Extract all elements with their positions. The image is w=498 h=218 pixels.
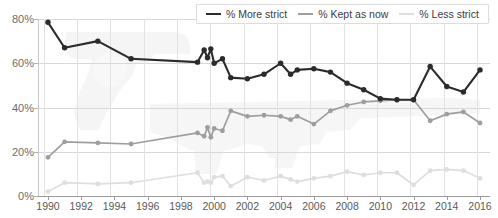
x-tick-mark-1996 [148,196,149,200]
data-point [477,67,482,72]
legend-swatch-more-strict [206,13,221,16]
x-axis-labels: 1990199219941996199820002002200420062008… [0,199,498,218]
data-point [328,108,333,113]
legend-item-less-strict[interactable]: % Less strict [399,9,479,20]
data-point [95,181,100,186]
x-tick-mark-2014 [447,196,448,200]
x-tick-label-2000: 2000 [202,201,225,212]
data-point [245,76,250,81]
x-tick-mark-1992 [81,196,82,200]
data-point [228,184,233,189]
data-point [278,174,283,179]
data-point [46,155,51,160]
x-tick-label-1990: 1990 [36,201,59,212]
data-point [205,55,210,60]
series-line [48,100,480,158]
x-tick-mark-2008 [347,196,348,200]
data-point [129,142,134,147]
y-axis-labels: 0%20%40%60%80% [0,0,34,218]
data-point [461,110,466,115]
x-tick-label-2006: 2006 [302,201,325,212]
data-point [228,108,233,113]
data-point [295,114,300,119]
data-point [278,61,283,66]
y-tick-mark-0 [34,196,38,197]
series-kept-as-now [46,97,483,159]
series-less-strict [46,167,483,194]
data-point [461,168,466,173]
data-point [201,47,206,52]
data-point [129,180,134,185]
data-point [62,45,67,50]
data-point [295,179,300,184]
x-tick-label-2010: 2010 [369,201,392,212]
legend-label-kept-as-now: % Kept as now [318,9,388,20]
y-tick-mark-60 [34,63,38,64]
data-point [62,139,67,144]
legend-item-kept-as-now[interactable]: % Kept as now [298,9,388,20]
data-point [220,128,225,133]
legend-swatch-kept-as-now [298,13,313,15]
y-tick-label-60: 60% [0,58,34,69]
data-point [288,177,293,182]
x-tick-label-1996: 1996 [136,201,159,212]
data-point [461,89,466,94]
data-point [427,64,432,69]
data-point [262,113,267,118]
x-tick-mark-2000 [214,196,215,200]
legend-label-more-strict: % More strict [226,9,287,20]
y-tick-mark-80 [34,19,38,20]
x-tick-label-2002: 2002 [236,201,259,212]
data-point [128,56,133,61]
legend-item-more-strict[interactable]: % More strict [206,9,287,20]
data-point [202,134,207,139]
data-point [478,121,483,126]
data-point [95,141,100,146]
x-tick-mark-1998 [181,196,182,200]
data-point [195,59,200,64]
legend-label-less-strict: % Less strict [419,9,479,20]
x-tick-label-2012: 2012 [402,201,425,212]
data-point [220,174,225,179]
data-point [195,131,200,136]
data-point [212,175,217,180]
x-tick-mark-2016 [480,196,481,200]
x-tick-label-1998: 1998 [169,201,192,212]
data-point [411,183,416,188]
data-point [444,84,449,89]
y-tick-mark-40 [34,108,38,109]
y-tick-label-80: 80% [0,14,34,25]
y-tick-label-20: 20% [0,147,34,158]
data-point [245,175,250,180]
data-point [208,180,213,185]
series-more-strict [45,20,482,103]
data-point [245,114,250,119]
data-point [311,176,316,181]
data-point [328,69,333,74]
data-point [278,114,283,119]
data-point [345,103,350,108]
y-tick-label-40: 40% [0,103,34,114]
data-point [208,135,213,140]
x-tick-mark-1990 [48,196,49,200]
data-point [328,174,333,179]
legend-swatch-less-strict [399,13,414,15]
data-point [345,169,350,174]
data-point [361,173,366,178]
data-point [220,56,225,61]
data-point [361,100,366,105]
data-point [394,97,399,102]
series-layer [0,0,498,218]
x-tick-label-2008: 2008 [335,201,358,212]
data-point [262,178,267,183]
data-point [378,96,383,101]
x-tick-label-1994: 1994 [103,201,126,212]
y-tick-mark-20 [34,152,38,153]
data-point [395,170,400,175]
data-point [212,126,217,131]
x-tick-mark-2012 [414,196,415,200]
x-tick-label-2016: 2016 [468,201,491,212]
data-point [261,72,266,77]
x-tick-mark-1994 [114,196,115,200]
data-point [444,167,449,172]
